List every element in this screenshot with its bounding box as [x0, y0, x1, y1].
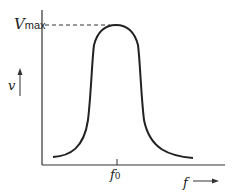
- v-arrow-head-icon: [18, 68, 23, 75]
- f0-label: f0: [110, 167, 121, 182]
- vmax-main: V: [14, 15, 25, 33]
- f-arrow-head-icon: [212, 179, 219, 184]
- vmax-sub: max: [25, 19, 46, 31]
- vmax-label: Vmax: [14, 15, 46, 33]
- f0-sub: 0: [115, 171, 121, 181]
- resonance-curve: [53, 25, 193, 158]
- x-axis-label: f: [183, 175, 188, 190]
- y-axis-label: v: [8, 78, 15, 93]
